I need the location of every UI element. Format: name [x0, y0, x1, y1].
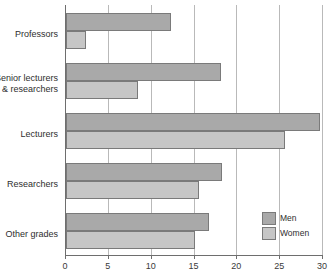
tick-mark-5: [108, 255, 109, 259]
tick-mark-25: [279, 255, 280, 259]
category-label-lecturers: Lecturers: [0, 129, 58, 140]
legend-swatch-women-icon: [262, 227, 276, 240]
tick-label-20: 20: [231, 261, 241, 271]
tick-mark-10: [151, 255, 152, 259]
category-label-senior-lecturers: Senior lecturers & researchers: [0, 73, 58, 95]
bar-lecturers-women: [66, 131, 285, 149]
tick-mark-15: [194, 255, 195, 259]
legend-label-men: Men: [280, 213, 297, 223]
legend-item-women: Women: [258, 226, 330, 241]
tick-label-15: 15: [188, 261, 198, 271]
tick-mark-30: [322, 255, 323, 259]
chart-legend: Men Women: [258, 211, 330, 245]
bar-other-grades-women: [66, 231, 195, 249]
tick-mark-20: [236, 255, 237, 259]
legend-swatch-men-icon: [262, 212, 276, 225]
tick-label-25: 25: [274, 261, 284, 271]
legend-item-men: Men: [258, 211, 330, 226]
bar-researchers-men: [66, 163, 222, 181]
bar-lecturers-men: [66, 113, 320, 131]
tick-label-30: 30: [317, 261, 327, 271]
bar-senior-lecturers-men: [66, 63, 221, 81]
tick-label-10: 10: [146, 261, 156, 271]
bar-researchers-women: [66, 181, 199, 199]
category-label-professors: Professors: [0, 29, 58, 40]
legend-label-women: Women: [280, 228, 309, 238]
category-label-other-grades: Other grades: [0, 229, 58, 240]
bar-professors-men: [66, 13, 171, 31]
bar-professors-women: [66, 31, 86, 49]
tick-label-5: 5: [105, 261, 110, 271]
category-label-researchers: Researchers: [0, 179, 58, 190]
bar-senior-lecturers-women: [66, 81, 138, 99]
tick-label-0: 0: [62, 261, 67, 271]
bar-other-grades-men: [66, 213, 209, 231]
bar-chart: Professors Senior lecturers & researcher…: [0, 0, 333, 279]
tick-mark-0: [65, 255, 66, 259]
